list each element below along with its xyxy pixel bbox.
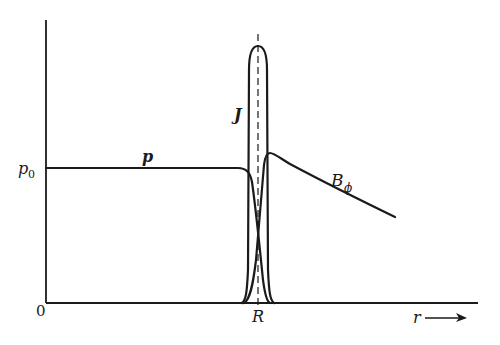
b-phi-subscript: ϕ: [344, 181, 352, 195]
p-curve: [46, 168, 270, 303]
p0-main: p: [18, 159, 28, 178]
pinch-profile-diagram: 0 p 0 p J B ϕ R r: [0, 0, 500, 345]
r-axis-letter: r: [413, 308, 422, 327]
origin-label: 0: [36, 302, 46, 320]
j-curve-label: J: [231, 105, 243, 124]
p0-subscript: 0: [28, 168, 35, 181]
p0-label: p 0: [18, 159, 35, 181]
r-axis-label: r: [413, 308, 422, 327]
r-tick-label: R: [251, 307, 264, 326]
p-curve-label: p: [142, 147, 153, 166]
b-phi-main: B: [330, 170, 344, 190]
r-arrow-icon: [425, 313, 467, 322]
